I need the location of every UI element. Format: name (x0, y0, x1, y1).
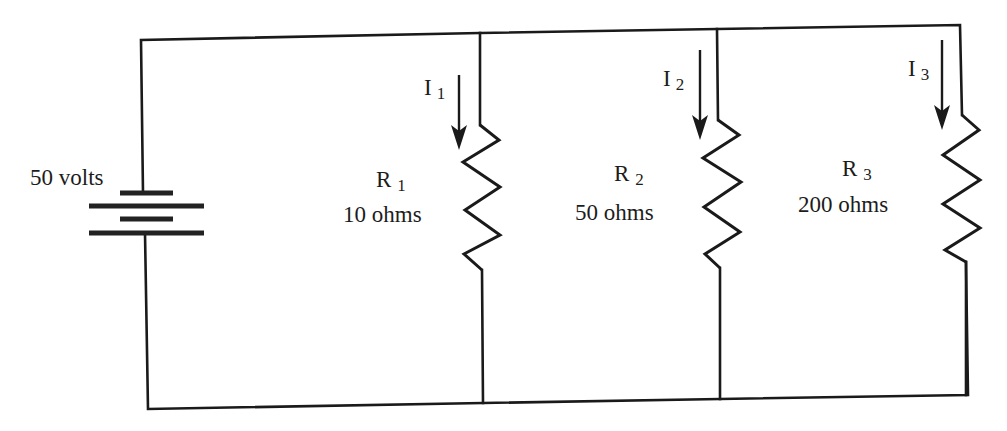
current-arrow-i2-icon (692, 50, 708, 140)
current-symbol: I (424, 75, 432, 100)
top-rail-wire (141, 25, 962, 193)
resistor-label-r2: R2 (614, 162, 644, 188)
resistor-subscript: 2 (635, 170, 644, 189)
resistor-r1-icon (463, 125, 500, 270)
resistor-symbol: R (614, 161, 629, 186)
battery-voltage-label: 50 volts (30, 166, 103, 189)
current-symbol: I (908, 56, 916, 81)
current-subscript: 2 (676, 75, 685, 94)
resistance-value-r1: 10 ohms (343, 203, 422, 226)
current-subscript: 3 (921, 65, 930, 84)
resistor-label-r3: R3 (842, 157, 872, 183)
resistance-value-r3: 200 ohms (798, 193, 888, 216)
current-label-i2: I2 (663, 67, 684, 93)
current-label-i1: I1 (424, 76, 445, 102)
current-arrow-i3-icon (934, 40, 950, 130)
branch-r1-wire (480, 33, 483, 403)
resistor-subscript: 3 (863, 165, 872, 184)
resistance-value-r2: 50 ohms (575, 201, 654, 224)
resistor-symbol: R (376, 167, 391, 192)
resistor-label-r1: R1 (376, 168, 406, 194)
resistor-r3-icon (943, 115, 980, 262)
bottom-rail-wire (145, 233, 968, 409)
current-arrow-i1-icon (451, 75, 467, 150)
current-subscript: 1 (437, 84, 446, 103)
branch-r2-wire (717, 29, 720, 399)
resistor-symbol: R (842, 156, 857, 181)
resistor-r2-icon (703, 120, 741, 268)
current-symbol: I (663, 66, 671, 91)
resistor-subscript: 1 (397, 176, 406, 195)
battery-icon (89, 193, 204, 233)
current-label-i3: I3 (908, 57, 929, 83)
